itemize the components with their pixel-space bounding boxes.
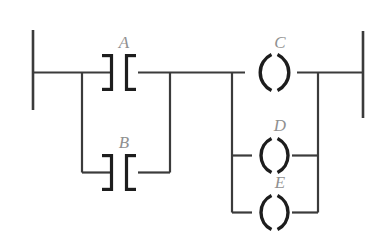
coil-e-label: E [274,173,286,192]
contact-b[interactable]: B [102,133,136,191]
contact-a[interactable]: A [102,33,136,91]
ladder-logic-diagram: A B C D E [0,0,385,243]
coil-e[interactable]: E [261,173,288,230]
coil-e-right-arc [278,196,289,230]
coil-d-label: D [273,116,287,135]
coil-c[interactable]: C [260,33,289,91]
ladder-diagram-canvas: A B C D E [0,0,385,243]
coil-c-label: C [274,33,286,52]
coil-c-left-arc [260,55,271,91]
coil-c-right-arc [278,55,289,91]
coil-e-left-arc [261,196,272,230]
contact-a-label: A [118,33,130,52]
coil-d-right-arc [278,139,289,173]
coil-d[interactable]: D [261,116,288,173]
contact-b-label: B [119,133,130,152]
coil-d-left-arc [261,139,272,173]
